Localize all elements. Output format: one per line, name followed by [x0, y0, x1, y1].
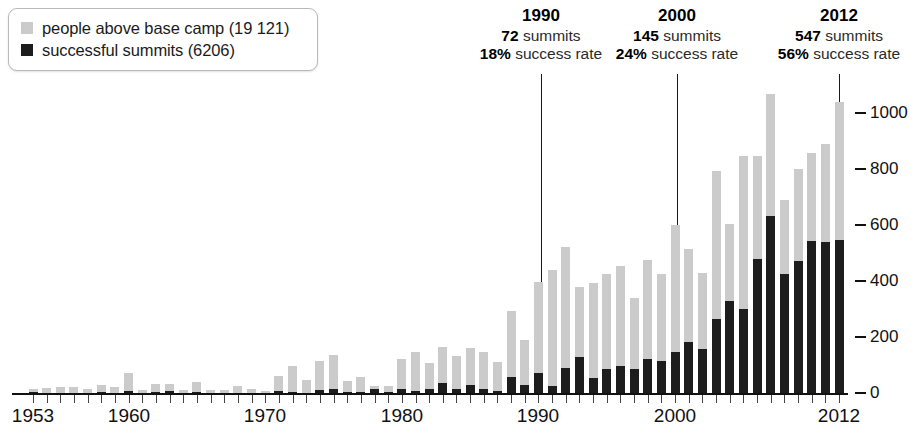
x-axis-line — [12, 393, 848, 395]
x-axis-tick-1965 — [197, 395, 198, 403]
x-axis-tick-1975 — [334, 395, 335, 403]
bar-successful-summits-1988 — [507, 377, 516, 393]
x-axis-tick-1997 — [634, 395, 635, 403]
bar-successful-summits-1990 — [534, 373, 543, 393]
x-axis-tick-1982 — [429, 395, 430, 403]
y-axis-tick-200 — [855, 336, 866, 338]
x-axis-tick-1989 — [525, 395, 526, 403]
y-axis-label-400: 400 — [870, 271, 898, 291]
x-axis-tick-1981 — [416, 395, 417, 403]
x-axis-tick-1959 — [115, 395, 116, 403]
x-axis-label-1960: 1960 — [108, 405, 150, 427]
x-axis-tick-1995 — [607, 395, 608, 403]
x-axis-tick-2004 — [730, 395, 731, 403]
bar-successful-summits-1985 — [466, 385, 475, 393]
bar-successful-summits-1993 — [575, 357, 584, 393]
x-axis-tick-1962 — [156, 395, 157, 403]
x-axis-tick-1958 — [101, 395, 102, 403]
x-axis-tick-1992 — [566, 395, 567, 403]
y-axis-tick-1000 — [855, 112, 866, 114]
bar-people-above-base-camp-1968 — [233, 386, 242, 393]
y-axis-tick-600 — [855, 224, 866, 226]
bar-people-above-base-camp-1972 — [288, 366, 297, 393]
y-axis-tick-0 — [855, 392, 866, 394]
x-axis-label-1980: 1980 — [381, 405, 423, 427]
chart-root: people above base camp (19 121) successf… — [0, 0, 913, 432]
bar-people-above-base-camp-1981 — [411, 352, 420, 393]
x-axis-tick-1993 — [579, 395, 580, 403]
x-axis-tick-1979 — [388, 395, 389, 403]
x-axis-tick-1988 — [511, 395, 512, 403]
x-axis-tick-1967 — [224, 395, 225, 403]
x-axis-tick-1974 — [320, 395, 321, 403]
x-axis-tick-1972 — [293, 395, 294, 403]
x-axis-tick-1998 — [648, 395, 649, 403]
bar-people-above-base-camp-1987 — [493, 362, 502, 393]
bar-successful-summits-2007 — [766, 216, 775, 393]
bar-successful-summits-2005 — [739, 309, 748, 393]
x-axis-tick-2006 — [757, 395, 758, 403]
x-axis-tick-2000 — [675, 395, 676, 403]
x-axis-tick-1964 — [183, 395, 184, 403]
x-axis-tick-1966 — [211, 395, 212, 403]
x-axis-label-2000: 2000 — [654, 405, 696, 427]
bar-successful-summits-2004 — [725, 301, 734, 393]
x-axis-tick-1961 — [142, 395, 143, 403]
x-axis-tick-1960 — [129, 395, 130, 403]
x-axis-tick-1986 — [484, 395, 485, 403]
x-axis-tick-1955 — [60, 395, 61, 403]
x-axis-tick-1987 — [497, 395, 498, 403]
bar-successful-summits-2002 — [698, 349, 707, 393]
bar-successful-summits-2001 — [684, 342, 693, 393]
bar-successful-summits-1992 — [561, 368, 570, 393]
bar-people-above-base-camp-1960 — [124, 373, 133, 393]
x-axis-tick-2002 — [702, 395, 703, 403]
x-axis-tick-1968 — [238, 395, 239, 403]
x-axis-label-1990: 1990 — [517, 405, 559, 427]
bar-people-above-base-camp-1980 — [397, 359, 406, 393]
x-axis-tick-1971 — [279, 395, 280, 403]
x-axis-tick-2007 — [771, 395, 772, 403]
bar-successful-summits-2011 — [821, 242, 830, 393]
y-axis-label-1000: 1000 — [870, 103, 908, 123]
bar-successful-summits-1998 — [643, 359, 652, 393]
bar-successful-summits-1996 — [616, 366, 625, 393]
x-axis-tick-1954 — [47, 395, 48, 403]
bar-people-above-base-camp-1986 — [479, 352, 488, 393]
x-axis-tick-1990 — [538, 395, 539, 403]
x-axis-tick-1980 — [402, 395, 403, 403]
x-axis-tick-2005 — [743, 395, 744, 403]
x-axis-tick-1957 — [88, 395, 89, 403]
y-axis-label-200: 200 — [870, 327, 898, 347]
x-axis-tick-1969 — [252, 395, 253, 403]
x-axis-tick-1976 — [347, 395, 348, 403]
bar-people-above-base-camp-1975 — [329, 355, 338, 393]
y-axis-tick-800 — [855, 168, 866, 170]
x-axis-tick-1994 — [593, 395, 594, 403]
x-axis-tick-1956 — [74, 395, 75, 403]
x-axis-tick-1973 — [306, 395, 307, 403]
bar-people-above-base-camp-1984 — [452, 356, 461, 393]
x-axis-tick-1999 — [661, 395, 662, 403]
bar-successful-summits-1983 — [438, 383, 447, 393]
bar-people-above-base-camp-1974 — [315, 361, 324, 393]
bar-successful-summits-1995 — [602, 369, 611, 393]
plot-area: 1953196019701980199020002012020040060080… — [0, 0, 913, 432]
x-axis-label-1953: 1953 — [12, 405, 54, 427]
x-axis-tick-2010 — [812, 395, 813, 403]
x-axis-tick-2012 — [839, 395, 840, 403]
bar-successful-summits-2008 — [780, 274, 789, 393]
x-axis-tick-1984 — [456, 395, 457, 403]
x-axis-label-1970: 1970 — [244, 405, 286, 427]
x-axis-tick-1977 — [361, 395, 362, 403]
x-axis-tick-1983 — [443, 395, 444, 403]
x-axis-tick-2011 — [825, 395, 826, 403]
bar-successful-summits-2009 — [794, 261, 803, 393]
x-axis-label-2012: 2012 — [818, 405, 860, 427]
x-axis-tick-1985 — [470, 395, 471, 403]
bar-successful-summits-1991 — [548, 386, 557, 393]
x-axis-tick-1996 — [620, 395, 621, 403]
y-axis-tick-400 — [855, 280, 866, 282]
x-axis-tick-2003 — [716, 395, 717, 403]
x-axis-tick-2001 — [689, 395, 690, 403]
